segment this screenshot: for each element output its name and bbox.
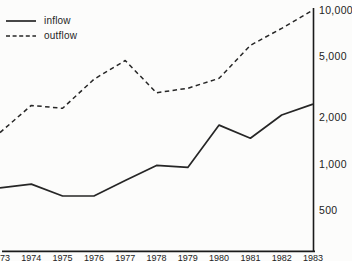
y-axis-tick-label: 5,000 (319, 51, 347, 62)
inflow-line (0, 104, 313, 196)
x-axis-tick-label: 1978 (146, 253, 166, 261)
legend-item-outflow: outflow (6, 30, 77, 42)
x-axis-tick-label: 1983 (303, 253, 323, 261)
x-axis-tick-label: 1981 (240, 253, 260, 261)
inflow-line-swatch-icon (6, 19, 36, 23)
y-axis-tick-label: 10,000 (319, 5, 352, 16)
outflow-dashed-line-swatch-icon (6, 34, 36, 38)
x-axis-tick-label: 1975 (53, 253, 73, 261)
x-axis-tick-label: 1980 (209, 253, 229, 261)
x-axis-tick-label: 1976 (84, 253, 104, 261)
y-axis-tick-label: 1,000 (319, 159, 347, 170)
x-axis-tick-label: 1973 (0, 253, 10, 261)
legend: inflow outflow (6, 15, 77, 42)
legend-label-inflow: inflow (44, 16, 71, 26)
x-axis-tick-label: 1977 (115, 253, 135, 261)
legend-item-inflow: inflow (6, 15, 77, 27)
x-axis-tick-label: 1979 (178, 253, 198, 261)
x-axis-tick-label: 1974 (21, 253, 41, 261)
x-axis-tick-label: 1982 (272, 253, 292, 261)
chart-figure: inflow outflow 10,0005,0002,0001,0005001… (0, 0, 352, 261)
y-axis-tick-label: 500 (319, 205, 337, 216)
legend-label-outflow: outflow (44, 31, 77, 41)
y-axis-tick-label: 2,000 (319, 112, 347, 123)
